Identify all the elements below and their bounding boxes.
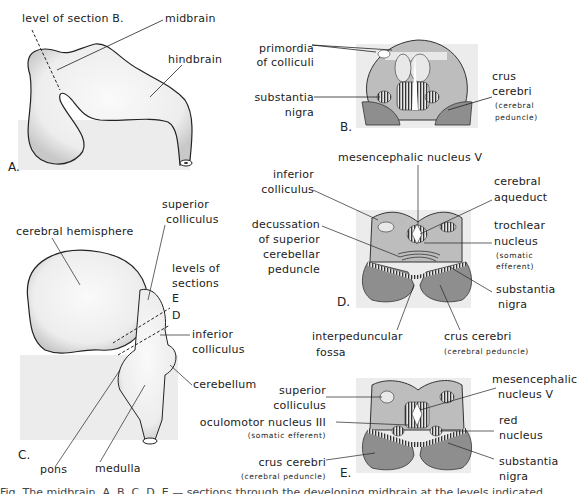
label-cerebellum: cerebellum bbox=[193, 378, 256, 391]
label-inferior-colliculus-c-line2: colliculus bbox=[192, 343, 245, 356]
label-level-d: D bbox=[172, 309, 181, 322]
label-superior-colliculus-e-line2: colliculus bbox=[250, 399, 326, 412]
panel-letter-b: B. bbox=[340, 120, 352, 134]
label-mesencephalic-nucleus-e-line1: mesencephalic bbox=[492, 373, 577, 386]
label-inferior-colliculus-c-line1: inferior bbox=[192, 328, 233, 341]
label-decussation-line2: of superior bbox=[230, 233, 320, 246]
label-crus-cerebri-e-line1: crus cerebri bbox=[230, 456, 326, 469]
label-interpeduncular-fossa-line2: fossa bbox=[316, 346, 346, 359]
label-mesencephalic-nucleus-e-line2: nucleus V bbox=[498, 388, 553, 401]
label-substantia-nigra-e-line1: substantia bbox=[499, 455, 559, 468]
label-level-e: E bbox=[172, 292, 179, 305]
panel-c-brain bbox=[20, 225, 192, 467]
label-inferior-colliculus-d-line1: inferior bbox=[250, 168, 314, 181]
label-superior-colliculus-e-line1: superior bbox=[250, 384, 326, 397]
label-crus-cerebri-d-line2: (cerebral peduncle) bbox=[444, 347, 529, 357]
label-interpeduncular-fossa-line1: interpeduncular bbox=[312, 330, 403, 343]
label-substantia-nigra-b-line2: nigra bbox=[240, 106, 314, 119]
figure-caption-cutoff: Fig. The midbrain. A, B, C, D, E — secti… bbox=[0, 486, 587, 494]
label-pons: pons bbox=[40, 463, 67, 476]
label-superior-colliculus-c-line1: superior bbox=[162, 198, 209, 211]
label-cerebral-aqueduct-line1: cerebral bbox=[494, 175, 541, 188]
label-decussation-line1: decussation bbox=[230, 218, 320, 231]
label-substantia-nigra-e-line2: nigra bbox=[499, 470, 528, 483]
label-red-nucleus-line2: nucleus bbox=[499, 429, 543, 442]
label-trochlear-nucleus-line3: (somatic bbox=[496, 251, 533, 261]
label-red-nucleus-line1: red bbox=[499, 414, 518, 427]
label-decussation-line4: peduncle bbox=[230, 263, 320, 276]
label-primordia-line2: of colliculi bbox=[240, 56, 314, 69]
label-inferior-colliculus-d-line2: colliculus bbox=[250, 183, 314, 196]
label-cerebral-hemisphere: cerebral hemisphere bbox=[16, 225, 133, 238]
label-trochlear-nucleus-line1: trochlear bbox=[494, 219, 545, 232]
label-level-of-section-b: level of section B. bbox=[22, 12, 124, 25]
label-decussation-line3: cerebellar bbox=[230, 248, 320, 261]
label-mesencephalic-nucleus-d: mesencephalic nucleus V bbox=[338, 151, 482, 164]
panel-b-section bbox=[312, 40, 492, 128]
label-oculomotor-nucleus-line2: (somatic efferent) bbox=[200, 431, 326, 441]
label-midbrain: midbrain bbox=[165, 12, 216, 25]
label-crus-cerebri-b-line4: peduncle) bbox=[495, 113, 538, 123]
panel-letter-d: D. bbox=[337, 295, 350, 309]
panel-a-embryo-brain bbox=[18, 20, 192, 170]
label-trochlear-nucleus-line2: nucleus bbox=[494, 235, 538, 248]
label-trochlear-nucleus-line4: efferent) bbox=[496, 262, 534, 272]
panel-letter-e: E. bbox=[340, 466, 351, 480]
label-crus-cerebri-b-line2: cerebri bbox=[492, 85, 532, 98]
label-cerebral-aqueduct-line2: aqueduct bbox=[494, 191, 547, 204]
label-oculomotor-nucleus-line1: oculomotor nucleus III bbox=[180, 416, 326, 429]
label-substantia-nigra-d-line2: nigra bbox=[498, 298, 527, 311]
label-medulla: medulla bbox=[95, 462, 141, 475]
label-levels-of-sections-line2: sections bbox=[172, 277, 219, 290]
label-levels-of-sections-line1: levels of bbox=[172, 262, 220, 275]
label-crus-cerebri-e-line2: (cerebral peduncle) bbox=[200, 472, 326, 482]
panel-letter-c: C. bbox=[18, 448, 30, 462]
label-substantia-nigra-d-line1: substantia bbox=[496, 283, 556, 296]
label-superior-colliculus-c-line2: colliculus bbox=[166, 213, 219, 226]
panel-letter-a: A. bbox=[8, 160, 20, 174]
label-crus-cerebri-b-line1: crus bbox=[492, 70, 516, 83]
panel-e-section bbox=[326, 378, 496, 473]
label-crus-cerebri-d-line1: crus cerebri bbox=[444, 330, 512, 343]
label-crus-cerebri-b-line3: (cerebral bbox=[495, 101, 534, 111]
label-substantia-nigra-b-line1: substantia bbox=[240, 91, 314, 104]
label-primordia-line1: primordia bbox=[250, 42, 314, 55]
label-hindbrain: hindbrain bbox=[168, 53, 222, 66]
